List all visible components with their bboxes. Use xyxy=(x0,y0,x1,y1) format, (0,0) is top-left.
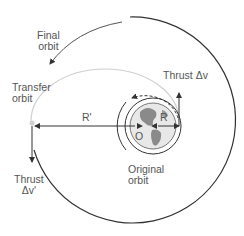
final-orbit-label: Final orbit xyxy=(37,30,60,52)
original-orbit-label: Original orbit xyxy=(128,164,164,186)
radius-r-prime-label: R' xyxy=(82,112,92,123)
final-orbit-label-line2: orbit xyxy=(37,41,60,52)
transfer-orbit-label: Transfer orbit xyxy=(12,82,51,104)
thrust-dv-prime-label: Thrust Δv' xyxy=(14,174,44,196)
hohmann-diagram: Final orbit Transfer orbit Thrust Δv Thr… xyxy=(0,0,244,236)
center-o-label: O xyxy=(135,131,143,142)
final-orbit-pointer xyxy=(50,22,122,64)
original-orbit-label-line2: orbit xyxy=(128,175,164,186)
thrust-dv-prime-label-line2: Δv' xyxy=(14,185,44,196)
radius-r-label: R xyxy=(160,112,168,123)
thrust-dv-label: Thrust Δv xyxy=(163,70,208,81)
transfer-orbit-label-line2: orbit xyxy=(12,93,51,104)
